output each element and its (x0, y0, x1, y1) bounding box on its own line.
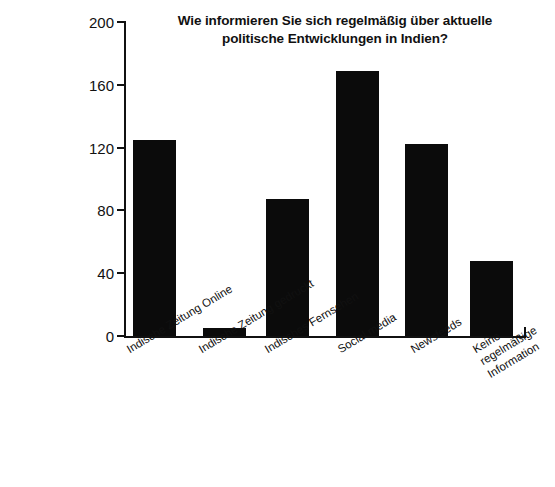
bar (405, 144, 448, 336)
y-axis-tick-label: 160 (74, 76, 114, 93)
y-axis-tick-label: 200 (74, 14, 114, 31)
cropped-caption (108, 471, 448, 483)
y-axis-tick-label: 0 (74, 328, 114, 345)
bar (133, 140, 176, 336)
y-axis-tick-label: 80 (74, 202, 114, 219)
y-axis-tick-label: 120 (74, 139, 114, 156)
y-axis-tick-label: 40 (74, 265, 114, 282)
bars-container (124, 22, 525, 336)
bar (266, 199, 309, 336)
bar-chart: Wie informieren Sie sich regelmäßig über… (0, 0, 555, 487)
x-axis-line (124, 336, 526, 338)
